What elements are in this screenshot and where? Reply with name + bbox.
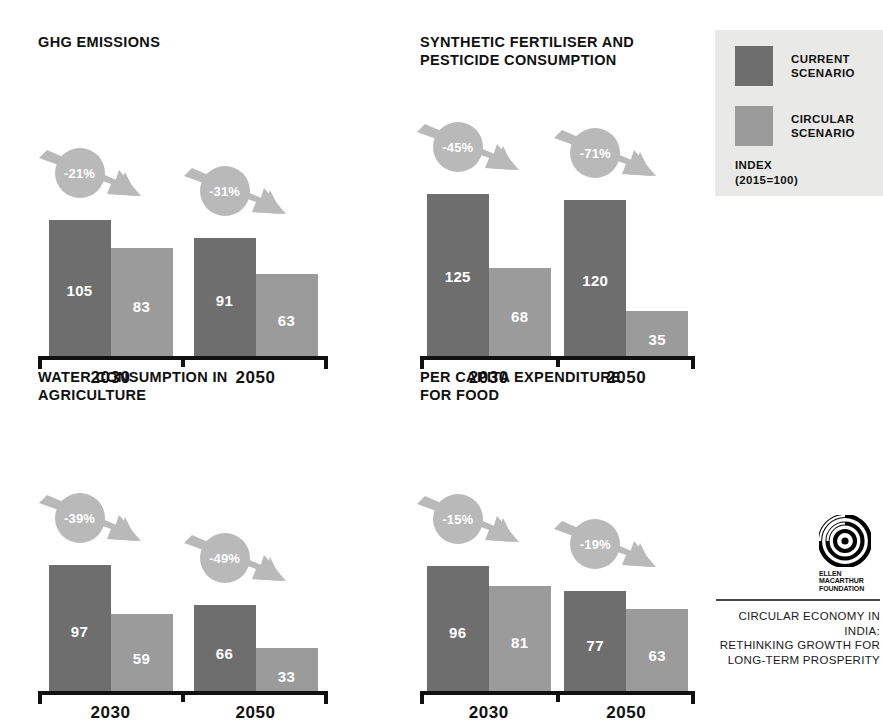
plot-area: 9681-15%7763-19% [420, 466, 695, 691]
bar-value-label: 83 [111, 298, 173, 315]
bar-current-2030: 96 [427, 566, 489, 691]
bar-value-label: 59 [111, 650, 173, 667]
brand-block: ELLEN MACARTHUR FOUNDATION CIRCULAR ECON… [712, 515, 880, 655]
legend-label-current: CURRENT SCENARIO [791, 52, 855, 80]
bar-value-label: 105 [49, 282, 111, 299]
chart-panel-2: SYNTHETIC FERTILISER AND PESTICIDE CONSU… [420, 33, 695, 358]
footer-divider [716, 599, 880, 601]
plot-area: 12568-45%12035-71% [420, 131, 695, 356]
legend-item-circular: CIRCULAR SCENARIO [735, 106, 855, 146]
bar-current-2030: 97 [49, 565, 111, 691]
bar-current-2050: 91 [194, 238, 256, 356]
bar-value-label: 81 [489, 634, 551, 651]
reduction-value: -31% [169, 184, 281, 199]
bar-value-label: 97 [49, 623, 111, 640]
bar-circular-2050: 63 [256, 274, 318, 356]
bar-circular-2030: 83 [111, 248, 173, 356]
bar-circular-2050: 35 [626, 311, 688, 357]
bar-current-2050: 77 [564, 591, 626, 691]
reduction-badge-2050: -71% [548, 124, 660, 186]
bar-value-label: 35 [626, 331, 688, 348]
bar-circular-2050: 33 [256, 648, 318, 691]
legend-swatch-circular [735, 106, 773, 146]
reduction-value: -49% [169, 551, 281, 566]
bar-current-2050: 120 [564, 200, 626, 356]
reduction-badge-2030: -39% [33, 489, 145, 551]
chart-panel-3: WATER CONSUMPTION IN AGRICULTURE9759-39%… [38, 368, 328, 693]
axis-tick-middle [181, 691, 185, 702]
bar-value-label: 63 [256, 312, 318, 329]
reduction-badge-2050: -49% [178, 529, 290, 591]
bar-circular-2030: 81 [489, 586, 551, 691]
reduction-badge-2050: -19% [548, 515, 660, 577]
reduction-badge-2030: -15% [411, 490, 523, 552]
bar-value-label: 77 [564, 637, 626, 654]
bar-value-label: 125 [427, 268, 489, 285]
reduction-value: -45% [402, 140, 514, 155]
legend-index-note: INDEX (2015=100) [735, 158, 798, 188]
legend-item-current: CURRENT SCENARIO [735, 46, 855, 86]
x-axis: 20302050 [420, 691, 695, 722]
axis-tick-middle [556, 691, 560, 702]
bar-circular-2030: 59 [111, 614, 173, 691]
axis-label-2030: 2030 [38, 703, 183, 722]
reduction-badge-2050: -31% [178, 162, 290, 224]
reduction-value: -71% [539, 146, 651, 161]
bar-current-2050: 66 [194, 605, 256, 691]
bar-value-label: 120 [564, 272, 626, 289]
legend-panel: CURRENT SCENARIO CIRCULAR SCENARIO INDEX… [715, 30, 883, 196]
reduction-value: -15% [402, 512, 514, 527]
legend-label-circular: CIRCULAR SCENARIO [791, 112, 855, 140]
chart-title: SYNTHETIC FERTILISER AND PESTICIDE CONSU… [420, 33, 634, 69]
bar-current-2030: 105 [49, 220, 111, 357]
reduction-value: -19% [539, 537, 651, 552]
legend-swatch-current [735, 46, 773, 86]
axis-label-2050: 2050 [558, 703, 696, 722]
bar-current-2030: 125 [427, 194, 489, 357]
axis-tick-middle [556, 356, 560, 367]
reduction-badge-2030: -21% [33, 144, 145, 206]
axis-label-2030: 2030 [420, 703, 558, 722]
x-axis: 20302050 [38, 691, 328, 722]
ellen-macarthur-logo-icon [819, 515, 871, 567]
reduction-value: -39% [24, 511, 136, 526]
reduction-value: -21% [24, 166, 136, 181]
bar-value-label: 33 [256, 668, 318, 685]
plot-area: 10583-21%9163-31% [38, 131, 328, 356]
plot-area: 9759-39%6633-49% [38, 466, 328, 691]
logo-wordmark: ELLEN MACARTHUR FOUNDATION [819, 570, 881, 592]
chart-panel-1: GHG EMISSIONS10583-21%9163-31%20302050 [38, 33, 328, 358]
bar-value-label: 63 [626, 647, 688, 664]
bar-value-label: 68 [489, 308, 551, 325]
bar-value-label: 66 [194, 645, 256, 662]
bar-value-label: 96 [427, 624, 489, 641]
chart-title: PER CAPITA EXPENDITURE FOR FOOD [420, 368, 621, 404]
footer-caption: CIRCULAR ECONOMY IN INDIA: RETHINKING GR… [712, 609, 880, 667]
bar-value-label: 91 [194, 292, 256, 309]
chart-title: GHG EMISSIONS [38, 33, 160, 51]
axis-label-2050: 2050 [183, 703, 328, 722]
reduction-badge-2030: -45% [411, 118, 523, 180]
bar-circular-2030: 68 [489, 268, 551, 356]
chart-title: WATER CONSUMPTION IN AGRICULTURE [38, 368, 228, 404]
axis-tick-middle [181, 356, 185, 367]
bar-circular-2050: 63 [626, 609, 688, 691]
chart-panel-4: PER CAPITA EXPENDITURE FOR FOOD9681-15%7… [420, 368, 695, 693]
